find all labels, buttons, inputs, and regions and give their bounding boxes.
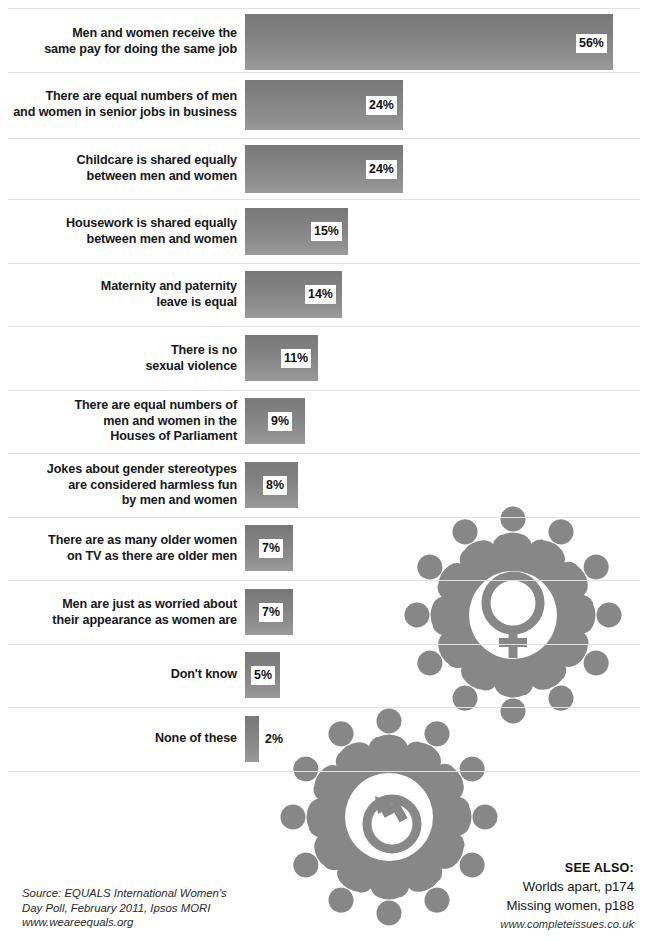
bar-value-label: 56% <box>576 34 607 53</box>
category-label: Maternity and paternity leave is equal <box>8 279 237 310</box>
bar-value-label: 14% <box>305 285 336 304</box>
see-also-block: SEE ALSO: Worlds apart, p174 Missing wom… <box>374 860 634 932</box>
horizontal-bar-chart: Men and women receive the same pay for d… <box>0 0 648 790</box>
chart-row: Maternity and paternity leave is equal 1… <box>0 271 648 318</box>
bar[interactable] <box>245 716 259 762</box>
chart-row: Don't know 5% <box>0 652 648 698</box>
see-also-url[interactable]: www.completeissues.co.uk <box>374 916 634 932</box>
chart-row: Men and women receive the same pay for d… <box>0 14 648 70</box>
category-label: There are equal numbers of men and women… <box>8 398 237 445</box>
source-line-1: Source: EQUALS International Women's <box>22 886 272 901</box>
source-line-2: Day Poll, February 2011, Ipsos MORI <box>22 901 272 916</box>
chart-row: There are as many older women on TV as t… <box>0 525 648 571</box>
gridline <box>8 72 640 73</box>
bar-value-label: 5% <box>251 666 275 685</box>
category-label: Jokes about gender stereotypes are consi… <box>8 462 237 509</box>
category-label: There are as many older women on TV as t… <box>8 533 237 564</box>
gridline <box>8 517 640 518</box>
chart-row: Childcare is shared equally between men … <box>0 145 648 193</box>
gridline <box>8 263 640 264</box>
category-label: Childcare is shared equally between men … <box>8 153 237 184</box>
chart-row: Men are just as worried about their appe… <box>0 589 648 635</box>
gridline <box>8 707 640 708</box>
chart-page: Men and women receive the same pay for d… <box>0 0 648 942</box>
see-also-item[interactable]: Worlds apart, p174 <box>374 877 634 896</box>
bar-value-label: 9% <box>268 412 292 431</box>
category-label: None of these <box>8 731 237 747</box>
bar-value-label: 8% <box>263 476 287 495</box>
bar-value-label: 24% <box>366 160 397 179</box>
chart-row: There is no sexual violence 11% <box>0 335 648 381</box>
chart-row: None of these 2% <box>0 716 648 762</box>
category-label: Housework is shared equally between men … <box>8 216 237 247</box>
see-also-item[interactable]: Missing women, p188 <box>374 896 634 915</box>
category-label: There is no sexual violence <box>8 343 237 374</box>
gridline <box>8 138 640 139</box>
gridline <box>8 453 640 454</box>
see-also-title: SEE ALSO: <box>374 860 634 877</box>
source-url[interactable]: www.weareequals.org <box>22 915 272 930</box>
gridline <box>8 390 640 391</box>
chart-row: Housework is shared equally between men … <box>0 208 648 255</box>
category-label: Don't know <box>8 667 237 683</box>
chart-row: There are equal numbers of men and women… <box>0 80 648 130</box>
bar-value-label: 2% <box>262 730 286 749</box>
source-credit: Source: EQUALS International Women's Day… <box>22 886 272 930</box>
bar-value-label: 7% <box>259 539 283 558</box>
bar-value-label: 15% <box>311 222 342 241</box>
category-label: Men are just as worried about their appe… <box>8 597 237 628</box>
gridline <box>8 326 640 327</box>
chart-row: There are equal numbers of men and women… <box>0 398 648 444</box>
chart-row: Jokes about gender stereotypes are consi… <box>0 462 648 508</box>
gridline <box>8 8 640 9</box>
bar-value-label: 24% <box>366 96 397 115</box>
category-label: Men and women receive the same pay for d… <box>8 26 237 57</box>
category-label: There are equal numbers of men and women… <box>8 89 237 120</box>
gridline <box>8 199 640 200</box>
bar-value-label: 7% <box>259 603 283 622</box>
bar-value-label: 11% <box>281 349 311 368</box>
gridline <box>8 644 640 645</box>
gridline <box>8 771 640 772</box>
bar[interactable] <box>245 14 613 70</box>
gridline <box>8 580 640 581</box>
